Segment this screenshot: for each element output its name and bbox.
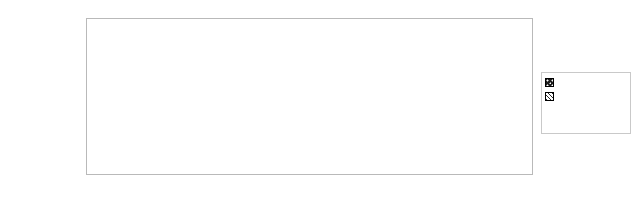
x-axis-tick-labels [86,175,533,224]
plot-area [86,18,533,175]
legend-swatch-dark-dotted-icon [545,78,554,87]
y-axis-title [14,32,30,172]
bar-series-group [87,19,532,174]
legend-item-resident-self-built[interactable] [545,91,627,101]
legend-swatch-hatch-icon [545,92,554,101]
y-axis-tick-labels [30,0,84,224]
chart-container [0,0,637,224]
chart-legend [541,72,631,134]
legend-item-central-local-other-construction[interactable] [545,77,627,87]
